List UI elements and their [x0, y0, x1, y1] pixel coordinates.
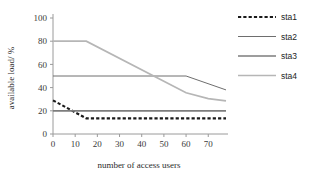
legend-label-sta1: sta1 — [281, 12, 297, 22]
x-axis-tick-label: 50 — [159, 139, 169, 149]
series-line-sta4 — [53, 41, 226, 101]
chart-legend: sta1sta2sta3sta4 — [238, 12, 297, 81]
x-axis-title: number of access users — [97, 160, 181, 170]
legend-label-sta3: sta3 — [281, 51, 297, 61]
x-axis-tick-label: 20 — [93, 139, 103, 149]
y-axis-tick-label: 60 — [38, 60, 48, 70]
chart-container: 020406080100 010203040506070 sta1sta2sta… — [0, 0, 325, 173]
y-axis-tick-label: 40 — [38, 83, 48, 93]
x-axis-tick-label: 70 — [204, 139, 214, 149]
x-axis-tick-label: 30 — [115, 139, 125, 149]
series-line-sta1 — [53, 100, 226, 118]
x-axis-tick-label: 10 — [71, 139, 81, 149]
y-axis-tick-label: 20 — [38, 106, 48, 116]
x-axis-tick-labels: 010203040506070 — [51, 139, 214, 149]
y-axis-tick-label: 0 — [43, 129, 48, 139]
y-axis-tick-label: 100 — [34, 13, 48, 23]
legend-label-sta2: sta2 — [281, 32, 297, 42]
data-series-layer — [53, 41, 226, 118]
y-axis-tick-labels: 020406080100 — [34, 13, 48, 139]
series-line-sta2 — [53, 76, 226, 90]
x-axis-tick-label: 60 — [182, 139, 192, 149]
y-axis-tick-label: 80 — [38, 36, 48, 46]
y-axis-title: available load/ % — [6, 46, 16, 109]
line-chart: 020406080100 010203040506070 sta1sta2sta… — [0, 0, 325, 173]
x-axis-tick-label: 40 — [137, 139, 147, 149]
legend-label-sta4: sta4 — [281, 71, 297, 81]
x-axis-tick-label: 0 — [51, 139, 56, 149]
